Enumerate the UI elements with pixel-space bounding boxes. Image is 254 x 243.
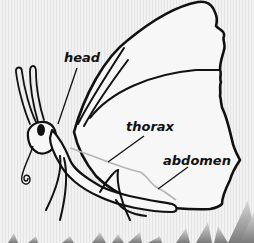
label-thorax: thorax bbox=[126, 119, 175, 134]
wing bbox=[74, 2, 240, 210]
proboscis bbox=[22, 146, 33, 184]
label-abdomen: abdomen bbox=[163, 153, 231, 168]
antennae bbox=[16, 66, 44, 124]
eye-icon bbox=[37, 124, 45, 136]
diagram-canvas: head thorax abdomen bbox=[0, 0, 254, 243]
butterfly-diagram: head thorax abdomen bbox=[0, 0, 254, 243]
label-head: head bbox=[64, 50, 101, 65]
head-pointer bbox=[58, 68, 77, 124]
